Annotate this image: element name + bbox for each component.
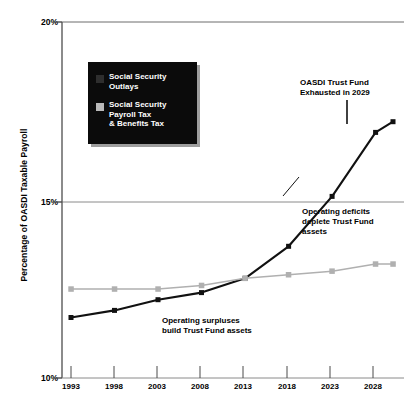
x-tick-label-2023: 2023 [310, 382, 350, 391]
data-point-marker [286, 244, 291, 249]
legend-label-outlays: Social Security Outlays [109, 72, 166, 91]
data-point-marker [242, 276, 248, 282]
chart-legend: Social Security Outlays Social Security … [88, 62, 197, 144]
data-point-marker [155, 286, 161, 292]
data-point-marker [390, 261, 396, 267]
x-tick-label-2003: 2003 [137, 382, 177, 391]
legend-entry-outlays: Social Security Outlays [96, 72, 166, 91]
data-point-marker [286, 272, 292, 278]
data-point-marker [68, 286, 74, 292]
x-tick-label-1998: 1998 [94, 382, 134, 391]
x-tick-label-2018: 2018 [267, 382, 307, 391]
light-square-swatch-icon [96, 103, 104, 111]
data-point-marker [199, 290, 204, 295]
data-point-marker [391, 119, 396, 124]
x-tick-label-2013: 2013 [223, 382, 263, 391]
data-point-marker [199, 283, 205, 289]
x-tick-label-2008: 2008 [180, 382, 220, 391]
legend-label-payroll-tax: Social Security Payroll Tax & Benefits T… [109, 100, 166, 129]
data-point-marker [330, 194, 335, 199]
x-tick-marks [71, 366, 373, 378]
annotation-leader-deficits [283, 177, 299, 196]
annotation-trust-fund-exhausted: OASDI Trust Fund Exhausted in 2029 [300, 78, 370, 98]
data-point-marker [69, 315, 74, 320]
series-line [71, 264, 393, 289]
data-point-marker [156, 297, 161, 302]
data-point-marker [373, 261, 379, 267]
x-tick-label-2028: 2028 [353, 382, 393, 391]
chart-container: Percentage of OASDI Taxable Payroll 20% … [0, 0, 420, 413]
series-payroll-tax [68, 261, 396, 292]
data-point-marker [112, 308, 117, 313]
data-point-marker [373, 130, 378, 135]
annotation-operating-surpluses: Operating surpluses build Trust Fund ass… [162, 316, 252, 336]
annotation-operating-deficits: Operating deficits deplete Trust Fund as… [302, 207, 374, 237]
dark-square-swatch-icon [96, 75, 104, 83]
x-tick-label-1993: 1993 [51, 382, 91, 391]
data-point-marker [112, 286, 118, 292]
data-point-marker [329, 268, 335, 274]
legend-entry-payroll-tax: Social Security Payroll Tax & Benefits T… [96, 100, 166, 129]
